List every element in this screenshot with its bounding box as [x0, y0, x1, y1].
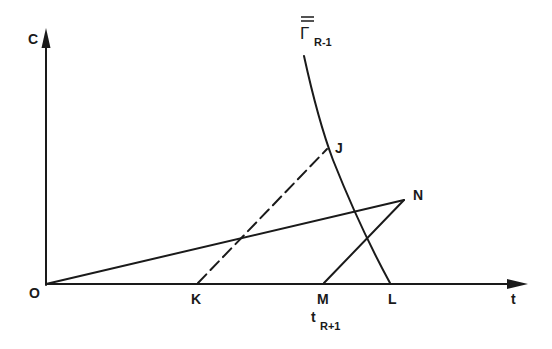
y-axis-label: C	[28, 31, 38, 47]
point-label-n: N	[413, 187, 423, 203]
dashed-line-k-j	[198, 149, 327, 283]
m-time-label: t	[311, 309, 316, 325]
x-axis-arrow-icon	[507, 279, 528, 289]
point-label-j: J	[335, 140, 343, 156]
point-label-l: L	[388, 291, 397, 307]
origin-label: O	[29, 285, 40, 301]
m-time-annotation: t R+1	[311, 309, 341, 332]
line-o-n	[46, 200, 404, 284]
diagram-canvas: C t O Γ R-1 J N K M L t R+1	[0, 0, 552, 349]
x-axis-label: t	[511, 291, 516, 307]
y-axis-arrow-icon	[42, 28, 51, 48]
y-axis: C	[28, 28, 51, 285]
point-label-k: K	[191, 291, 201, 307]
x-axis: t	[46, 279, 528, 307]
gamma-subscript: R-1	[314, 36, 332, 48]
point-label-m: M	[317, 291, 329, 307]
gamma-curve: Γ R-1	[300, 17, 390, 283]
m-time-subscript: R+1	[320, 320, 341, 332]
line-m-n	[324, 200, 404, 283]
gamma-curve-path	[304, 56, 390, 283]
gamma-label: Γ	[300, 24, 309, 43]
